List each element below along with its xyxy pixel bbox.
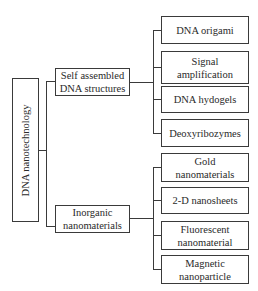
leaf-dna-origami: DNA origami [161, 16, 249, 44]
root-label: DNA nanotechnology [19, 104, 32, 196]
leaf-label: 2-D nanosheets [172, 194, 237, 207]
branch-label-line2: DNA structures [60, 82, 126, 95]
leaf-label: DNA hydogels [174, 93, 237, 106]
connector-trunk-level1 [46, 81, 47, 227]
branch-node-inorganic: Inorganic nanomaterials [55, 205, 130, 233]
connector-branch-1 [129, 82, 153, 83]
leaf-gold-nanomaterials: Gold nanomaterials [161, 153, 249, 182]
leaf-signal-amplification: Signal amplification [161, 51, 249, 84]
leaf-label-line1: Fluorescent [181, 223, 230, 236]
connector-leaf [153, 200, 161, 201]
connector-leaf [153, 30, 161, 31]
connector-leaf [153, 269, 161, 270]
leaf-label-line1: Magnetic [185, 257, 225, 270]
leaf-label-line1: Signal [192, 55, 219, 68]
leaf-magnetic-nanoparticle: Magnetic nanoparticle [161, 255, 249, 284]
leaf-label-line2: nanomaterials [176, 168, 235, 181]
connector-leaf [153, 67, 161, 68]
leaf-dna-hydogels: DNA hydogels [161, 86, 249, 113]
connector-trunk-branch-2 [153, 167, 154, 270]
connector-leaf [153, 235, 161, 236]
connector-trunk-branch-1 [153, 30, 154, 134]
branch-label-line1: Inorganic [72, 206, 112, 219]
connector-leaf [153, 167, 161, 168]
leaf-label-line2: nanoparticle [179, 270, 231, 283]
leaf-label-line1: Gold [195, 155, 216, 168]
leaf-label: Deoxyribozymes [169, 127, 241, 140]
branch-node-self-assembled: Self assembled DNA structures [55, 68, 130, 96]
connector-leaf [153, 99, 161, 100]
leaf-fluorescent-nanomaterial: Fluorescent nanomaterial [161, 221, 249, 250]
leaf-label-line2: amplification [177, 68, 233, 81]
connector-branch-2 [129, 218, 153, 219]
connector-leaf [153, 133, 161, 134]
leaf-label-line2: nanomaterial [178, 236, 233, 249]
branch-label-line2: nanomaterials [63, 219, 122, 232]
leaf-deoxyribozymes: Deoxyribozymes [161, 119, 249, 147]
leaf-label: DNA origami [176, 24, 233, 37]
leaf-2d-nanosheets: 2-D nanosheets [161, 187, 249, 214]
branch-label-line1: Self assembled [61, 69, 124, 82]
root-node: DNA nanotechnology [12, 78, 39, 222]
